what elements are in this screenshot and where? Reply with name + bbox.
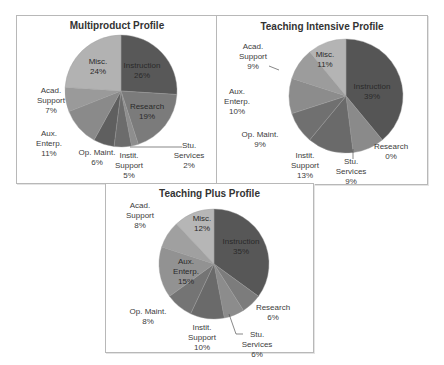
data-label: Stu.Services2% — [174, 141, 205, 170]
pie-chart: Instruction35%Research6%Stu.Services6%In… — [106, 184, 313, 352]
pie-chart: Instruction26%Research19%Stu.Services2%I… — [17, 16, 217, 183]
data-label: Misc.11% — [316, 50, 335, 69]
leader-line — [229, 314, 243, 334]
data-label: Aux.Enterp.10% — [224, 87, 250, 116]
data-label: Research0% — [374, 142, 408, 161]
data-label: Misc.24% — [89, 57, 108, 76]
teaching-plus-profile-chart: Teaching Plus Profile Instruction35%Rese… — [105, 183, 314, 353]
data-label: Research6% — [256, 303, 290, 322]
data-label: Stu.Services6% — [242, 330, 273, 359]
data-label: Acad.Support9% — [239, 42, 268, 71]
data-label: Instit.Support10% — [188, 323, 217, 352]
data-label: Aux.Enterp.11% — [36, 129, 62, 158]
multiproduct-profile-chart: Multiproduct Profile Instruction26%Resea… — [16, 15, 218, 184]
pie-chart: Instruction39%Research0%Stu.Services9%In… — [217, 16, 427, 184]
data-label: Op. Maint.9% — [242, 130, 279, 149]
data-label: Instit.Support5% — [115, 151, 144, 180]
data-label: Misc.12% — [193, 214, 212, 233]
data-label: Stu.Services9% — [336, 157, 367, 186]
data-label: Op. Maint.6% — [79, 148, 116, 167]
teaching-intensive-profile-chart: Teaching Intensive Profile Instruction39… — [216, 15, 428, 185]
data-label: Acad.Support7% — [37, 86, 66, 115]
data-label: Acad.Support8% — [126, 201, 155, 230]
leader-line — [269, 66, 279, 70]
data-label: Op. Maint.8% — [130, 307, 167, 326]
data-label: Instit.Support13% — [291, 151, 320, 180]
